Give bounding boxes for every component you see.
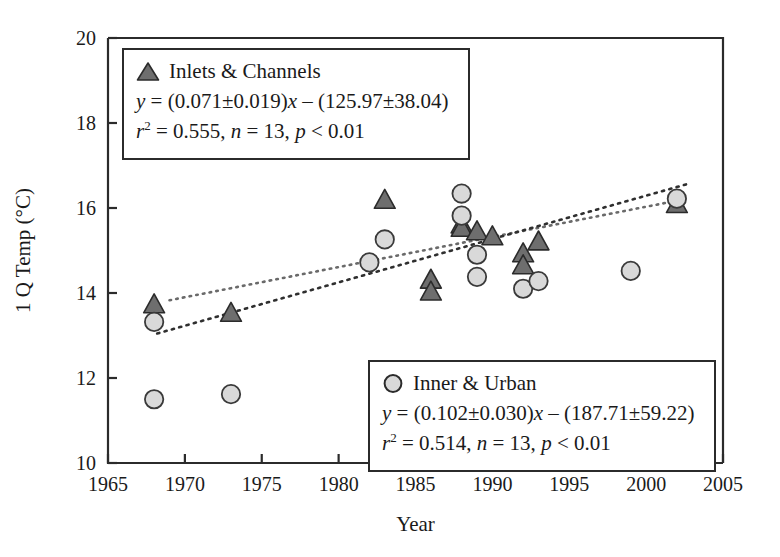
x-tick-label: 1990 <box>472 473 512 495</box>
y-tick-label: 20 <box>76 27 96 49</box>
x-axis-title: Year <box>396 512 435 536</box>
scatter-plot-figure: 1965197019751980198519901995200020051012… <box>0 0 780 557</box>
data-point-circle <box>468 246 486 264</box>
stats-n-value: = 13, <box>487 431 541 455</box>
eq-y-symbol: y <box>136 89 145 113</box>
eq-tail: – (125.97±38.04) <box>297 89 449 113</box>
legend-inner-label: Inner & Urban <box>413 373 537 394</box>
legend-inlets-header: Inlets & Channels <box>136 56 456 86</box>
data-point-circle <box>222 385 240 403</box>
y-tick-label: 10 <box>76 452 96 474</box>
data-point-circle <box>529 272 547 290</box>
legend-inlets-equation: y = (0.071±0.019)x – (125.97±38.04) <box>136 86 456 116</box>
stats-p-value: < 0.01 <box>306 119 365 143</box>
stats-n-symbol: n <box>231 119 242 143</box>
eq-body: = (0.071±0.019) <box>145 89 287 113</box>
data-point-circle <box>360 253 378 271</box>
stats-n-symbol: n <box>477 431 488 455</box>
eq-x-symbol: x <box>288 89 297 113</box>
stats-r-value: = 0.555, <box>151 119 231 143</box>
data-point-circle <box>145 313 163 331</box>
x-tick-label: 2000 <box>626 473 666 495</box>
eq-y-symbol: y <box>382 401 391 425</box>
x-tick-label: 1985 <box>396 473 436 495</box>
legend-inlets-stats: r2 = 0.555, n = 13, p < 0.01 <box>136 116 456 146</box>
x-tick-label: 1975 <box>242 473 282 495</box>
x-tick-label: 2005 <box>703 473 743 495</box>
x-tick-label: 1970 <box>165 473 205 495</box>
data-point-triangle <box>374 189 395 208</box>
y-axis-title: 1 Q Temp (°C) <box>11 188 35 313</box>
y-tick-label: 12 <box>76 367 96 389</box>
data-point-triangle <box>528 231 549 250</box>
data-point-circle <box>668 189 686 207</box>
stats-p-symbol: p <box>295 119 306 143</box>
y-tick-label: 14 <box>76 282 96 304</box>
legend-inner-equation: y = (0.102±0.030)x – (187.71±59.22) <box>382 398 702 428</box>
y-tick-label: 16 <box>76 197 96 219</box>
x-tick-label: 1995 <box>549 473 589 495</box>
data-point-triangle <box>144 294 165 313</box>
eq-x-symbol: x <box>534 401 543 425</box>
x-tick-label: 1965 <box>88 473 128 495</box>
legend-inner-header: Inner & Urban <box>382 368 702 398</box>
data-point-circle <box>376 230 394 248</box>
stats-p-symbol: p <box>541 431 552 455</box>
data-point-circle <box>452 206 470 224</box>
stats-n-value: = 13, <box>241 119 295 143</box>
data-point-circle <box>622 262 640 280</box>
eq-body: = (0.102±0.030) <box>391 401 533 425</box>
x-tick-label: 1980 <box>319 473 359 495</box>
legend-inlets-label: Inlets & Channels <box>169 61 321 82</box>
circle-marker-icon <box>382 373 404 394</box>
data-point-circle <box>452 184 470 202</box>
triangle-marker-icon <box>136 61 160 82</box>
stats-r-value: = 0.514, <box>397 431 477 455</box>
legend-inlets-channels: Inlets & Channels y = (0.071±0.019)x – (… <box>122 48 470 160</box>
stats-p-value: < 0.01 <box>552 431 611 455</box>
eq-tail: – (187.71±59.22) <box>543 401 695 425</box>
y-tick-label: 18 <box>76 112 96 134</box>
data-point-circle <box>145 390 163 408</box>
stats-r-symbol: r <box>382 431 390 455</box>
legend-inner-stats: r2 = 0.514, n = 13, p < 0.01 <box>382 428 702 458</box>
stats-r-symbol: r <box>136 119 144 143</box>
legend-inner-urban: Inner & Urban y = (0.102±0.030)x – (187.… <box>368 360 716 472</box>
data-point-circle <box>468 268 486 286</box>
